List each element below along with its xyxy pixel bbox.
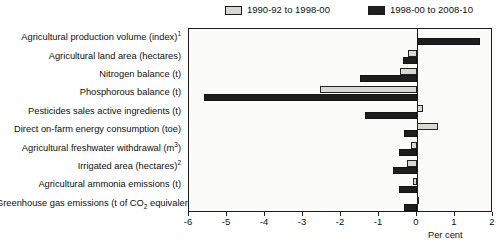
bar-series-2 — [404, 204, 417, 211]
chart-container: 1990-92 to 1998-00 1998-00 to 2008-10 Ag… — [0, 0, 500, 244]
bar-series-1 — [408, 50, 417, 57]
x-axis-tick-label: 1 — [443, 216, 465, 227]
bar-series-2 — [204, 94, 417, 101]
plot-area — [188, 28, 492, 212]
x-axis-labels: -6-5-4-3-2-1012 — [0, 216, 500, 230]
bar-series-1 — [413, 178, 417, 185]
bar-series-1 — [411, 142, 417, 149]
bar-series-2 — [399, 186, 417, 193]
x-axis-tick-label: -2 — [329, 216, 351, 227]
legend-entry-series-2: 1998-00 to 2008-10 — [368, 5, 473, 15]
category-label: Direct on-farm energy consumption (toe) — [0, 124, 181, 134]
bar-series-1 — [320, 86, 417, 93]
bar-series-1 — [407, 160, 417, 167]
x-axis-tick-label: 2 — [481, 216, 500, 227]
dark-square-icon — [368, 6, 385, 15]
bar-series-2 — [403, 57, 417, 64]
bar-series-1 — [417, 197, 419, 204]
x-axis-title: Per cent — [428, 230, 463, 240]
category-label: Agricultural freshwater withdrawal (m3) — [0, 143, 181, 153]
x-axis-tick-label: -4 — [253, 216, 275, 227]
bar-series-1 — [400, 68, 417, 75]
category-label: Agricultural ammonia emissions (t) — [0, 179, 181, 189]
category-axis-labels: Agricultural production volume (index)1A… — [0, 28, 185, 212]
x-axis-tick-label: -1 — [367, 216, 389, 227]
bar-series-1 — [417, 123, 438, 130]
x-axis-tick-label: -3 — [291, 216, 313, 227]
category-label: Greenhouse gas emissions (t of CO2 equiv… — [0, 198, 181, 208]
x-axis-tick-label: 0 — [405, 216, 427, 227]
category-label: Agricultural land area (hectares) — [0, 51, 181, 61]
light-square-icon — [225, 6, 242, 15]
category-label: Phosphorous balance (t) — [0, 87, 181, 97]
legend-label-series-1: 1990-92 to 1998-00 — [247, 5, 330, 15]
chart-legend: 1990-92 to 1998-00 1998-00 to 2008-10 — [0, 2, 500, 22]
category-label: Agricultural production volume (index)1 — [0, 32, 181, 42]
bar-series-2 — [399, 149, 417, 156]
bar-series-2 — [404, 130, 417, 137]
category-label: Pesticides sales active ingredients (t) — [0, 106, 181, 116]
bar-series-2 — [365, 112, 417, 119]
bar-series-2 — [360, 75, 417, 82]
x-axis-tick-label: -5 — [215, 216, 237, 227]
category-label: Irrigated area (hectares)2 — [0, 161, 181, 171]
x-axis-tick-label: -6 — [177, 216, 199, 227]
legend-label-series-2: 1998-00 to 2008-10 — [390, 5, 473, 15]
bar-series-2 — [393, 167, 417, 174]
bar-series-1 — [417, 105, 423, 112]
legend-entry-series-1: 1990-92 to 1998-00 — [225, 5, 330, 15]
bar-series-2 — [417, 38, 480, 45]
category-label: Nitrogen balance (t) — [0, 69, 181, 79]
